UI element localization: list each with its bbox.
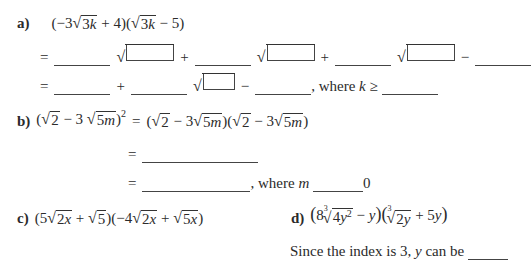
note-prefix-text: Since the index is 3, (290, 242, 411, 260)
where-text: , where (250, 174, 294, 192)
equals-sign: = (132, 112, 140, 130)
plus-sign: + (116, 77, 124, 95)
problem-a-header: a) (−3√3k + 4)(√3k − 5) (17, 12, 184, 32)
problem-a-expression: (−3√3k + 4)(√3k − 5) (52, 14, 185, 32)
problem-d-header: d) (83√4y2 − y)(3√2y + 5y) (291, 207, 448, 227)
relation-symbol: ≥ (370, 77, 378, 95)
answer-blank[interactable] (475, 51, 531, 66)
radical-answer-box[interactable]: √ (397, 44, 455, 66)
radical-answer-box[interactable]: √ (116, 44, 174, 66)
plus-sign: + (180, 48, 188, 66)
problem-c-expression: (5√2x + √5)(−4√2x + √5x) (35, 209, 204, 227)
problem-b-expression-right: (√2 − 3√5m)(√2 − 3√5m) (146, 112, 308, 130)
equals-sign: = (40, 77, 48, 95)
variable-k: k (359, 77, 366, 95)
variable-m: m (298, 174, 309, 192)
answer-blank[interactable] (131, 80, 187, 95)
answer-blank[interactable] (255, 80, 311, 95)
equals-sign: = (128, 145, 136, 163)
radical-answer-box[interactable]: √ (257, 44, 315, 66)
zero-value: 0 (363, 174, 371, 192)
problem-a-step1: = √ + √ + √ − (40, 46, 531, 66)
problem-d-expression: (83√4y2 − y)(3√2y + 5y) (310, 205, 447, 227)
variable-y: y (415, 242, 422, 260)
problem-b-expression-left: (√2 − 3 √5m)2 (36, 110, 126, 130)
answer-blank[interactable] (468, 245, 508, 260)
minus-sign: − (461, 48, 469, 66)
answer-blank[interactable] (142, 177, 250, 192)
equals-sign: = (40, 48, 48, 66)
problem-b-header: b) (√2 − 3 √5m)2 = (√2 − 3√5m)(√2 − 3√5m… (17, 110, 308, 130)
problem-b-step2: = , where m 0 (128, 172, 370, 192)
answer-blank[interactable] (195, 51, 251, 66)
problem-b-step1: = (128, 143, 258, 163)
note-suffix-text: can be (425, 242, 464, 260)
problem-c-header: c) (5√2x + √5)(−4√2x + √5x) (17, 207, 203, 227)
answer-blank[interactable] (382, 80, 438, 95)
problem-a-label: a) (17, 14, 30, 32)
answer-blank[interactable] (54, 80, 110, 95)
answer-blank[interactable] (54, 51, 110, 66)
radical-answer-box[interactable]: √ (193, 73, 235, 95)
problem-c-label: c) (17, 209, 29, 227)
answer-blank[interactable] (313, 177, 363, 192)
problem-b-label: b) (17, 112, 30, 130)
problem-d-label: d) (291, 209, 304, 227)
answer-blank[interactable] (335, 51, 391, 66)
where-text: , where (311, 77, 355, 95)
minus-sign: − (241, 77, 249, 95)
plus-sign: + (321, 48, 329, 66)
problem-a-step2: = + √ − , where k ≥ (40, 75, 438, 95)
equals-sign: = (128, 174, 136, 192)
problem-d-note: Since the index is 3, y can be (290, 240, 508, 260)
answer-blank[interactable] (142, 148, 258, 163)
